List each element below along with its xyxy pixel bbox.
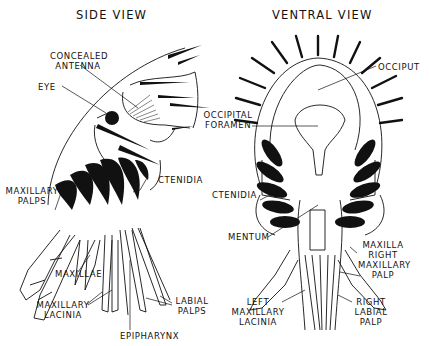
label-ventral-ctenidia: CTENIDIA [212,190,257,200]
side-view-title: SIDE VIEW [76,8,147,22]
flea-head-diagram: SIDE VIEW VENTRAL VIEW CONCEALED ANTENNA… [0,0,429,346]
label-maxillary-palps: MAXILLARY PALPS [4,186,60,206]
label-mentum: MENTUM [228,232,269,242]
label-eye: EYE [38,82,56,92]
label-maxillae: MAXILLAE [55,269,102,279]
label-maxilla-right-maxillary-palp: MAXILLA RIGHT MAXILLARY PALP [358,240,408,280]
eye-dot [105,111,119,125]
label-concealed-antenna: CONCEALED ANTENNA [50,51,106,71]
side-ctenidia [55,158,148,210]
label-epipharynx: EPIPHARYNX [120,331,179,341]
label-maxillary-lacinia: MAXILLARY LACINIA [36,300,90,320]
label-occipital-foramen: OCCIPITAL FORAMEN [200,110,256,130]
ventral-ctenidia [253,136,383,228]
label-side-ctenidia: CTENIDIA [158,175,203,185]
label-left-maxillary-lacinia: LEFT MAXILLARY LACINIA [230,297,286,327]
label-occiput: OCCIPUT [378,62,420,72]
ventral-view-title: VENTRAL VIEW [272,8,373,22]
label-labial-palps: LABIAL PALPS [174,296,210,316]
label-right-labial-palp: RIGHT LABIAL PALP [348,297,394,327]
